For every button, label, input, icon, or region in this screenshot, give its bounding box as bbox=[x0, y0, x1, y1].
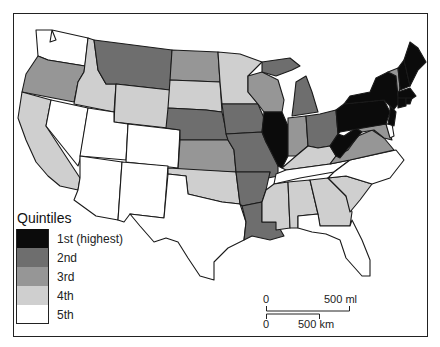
state-ND bbox=[170, 50, 220, 82]
state-WY bbox=[114, 84, 170, 128]
legend-swatch bbox=[16, 267, 49, 286]
legend-label: 4th bbox=[57, 289, 74, 303]
scale-km-end: 500 km bbox=[298, 318, 334, 330]
legend-label: 5th bbox=[57, 308, 74, 322]
legend-item-2nd: 2nd bbox=[16, 248, 123, 267]
legend-title: Quintiles bbox=[17, 210, 123, 226]
scale-bar: 0 500 ml 0 500 km bbox=[258, 293, 358, 333]
state-IA bbox=[222, 104, 264, 134]
state-SD bbox=[168, 80, 222, 112]
scale-km-start: 0 bbox=[263, 318, 269, 330]
legend-label: 2nd bbox=[57, 251, 77, 265]
legend-swatch bbox=[16, 305, 49, 324]
legend-label: 3rd bbox=[57, 270, 74, 284]
state-KS bbox=[178, 140, 236, 172]
state-CO bbox=[126, 124, 180, 168]
legend-swatch bbox=[16, 229, 49, 248]
state-NM bbox=[118, 162, 168, 222]
legend-swatch bbox=[16, 248, 49, 267]
legend-item-4th: 4th bbox=[16, 286, 123, 305]
legend: Quintiles 1st (highest) 2nd 3rd 4th 5th bbox=[16, 210, 123, 324]
state-MT bbox=[94, 40, 172, 90]
legend-item-3rd: 3rd bbox=[16, 267, 123, 286]
legend-label: 1st (highest) bbox=[57, 232, 123, 246]
state-RI bbox=[406, 98, 412, 104]
state-CT bbox=[398, 98, 406, 108]
legend-swatch bbox=[16, 286, 49, 305]
legend-item-5th: 5th bbox=[16, 305, 123, 324]
legend-item-1st: 1st (highest) bbox=[16, 229, 123, 248]
